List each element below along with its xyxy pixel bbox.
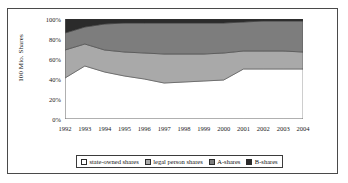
y-axis-tick-labels: 100%80%60%40%20%0% (33, 19, 61, 119)
y-tick-label: 20% (37, 96, 61, 103)
area-series-a-shares (65, 21, 303, 54)
chart-figure: 100 Mio. Shares 100%80%60%40%20%0% 19921… (0, 0, 348, 183)
legend-label: B-shares (255, 158, 278, 165)
y-tick-label: 40% (37, 76, 61, 83)
chart-legend: state-owned shareslegal person sharesA-s… (76, 155, 283, 168)
legend-label: A-shares (217, 158, 240, 165)
y-tick-label: 0% (37, 116, 61, 123)
legend-item[interactable]: legal person shares (145, 158, 203, 165)
legend-item[interactable]: B-shares (246, 158, 277, 165)
legend-label: legal person shares (153, 158, 202, 165)
legend-item[interactable]: state-owned shares (81, 158, 139, 165)
y-axis-title: 100 Mio. Shares (17, 10, 25, 106)
legend-swatch-icon (246, 159, 252, 165)
y-tick-label: 80% (37, 36, 61, 43)
y-tick-label: 100% (37, 16, 61, 23)
legend-swatch-icon (209, 159, 215, 165)
stacked-area-plot (65, 19, 303, 119)
x-axis-tick-labels: 1992199319941995199619971998199920002001… (65, 125, 303, 135)
legend-item[interactable]: A-shares (209, 158, 241, 165)
legend-swatch-icon (81, 159, 87, 165)
legend-swatch-icon (145, 159, 151, 165)
x-tick-label: 2004 (288, 125, 318, 133)
plot-area (65, 19, 303, 119)
legend-label: state-owned shares (90, 158, 139, 165)
y-tick-label: 60% (37, 56, 61, 63)
